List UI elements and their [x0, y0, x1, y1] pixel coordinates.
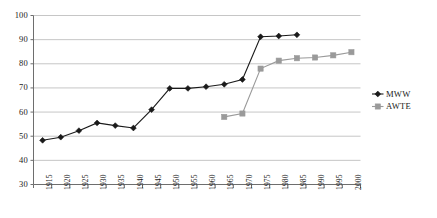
x-tick-label: 1940 — [137, 174, 145, 190]
line-chart: 30405060708090100 1915192019251930193519… — [0, 0, 437, 218]
data-point-mww — [58, 134, 64, 140]
x-tick-label: 1970 — [246, 174, 254, 190]
data-point-awte — [312, 55, 317, 60]
x-tick-label: 1955 — [191, 174, 199, 190]
legend-label-mww: MWW — [386, 90, 410, 99]
data-point-mww — [185, 86, 191, 92]
data-point-awte — [258, 66, 263, 71]
x-tick-label: 1935 — [118, 174, 126, 190]
y-tick-label: 90 — [2, 35, 28, 44]
legend-marker-mww — [375, 91, 381, 97]
data-point-mww — [240, 77, 246, 83]
legend-marker-awte — [375, 104, 380, 109]
x-tick-label: 1925 — [82, 174, 90, 190]
x-tick-label: 1915 — [46, 174, 54, 190]
data-point-mww — [294, 32, 300, 38]
y-tick-label: 40 — [2, 156, 28, 165]
series-line-awte — [224, 52, 351, 117]
y-tick-label: 50 — [2, 132, 28, 141]
y-tick-label: 70 — [2, 83, 28, 92]
y-tick-label: 80 — [2, 59, 28, 68]
data-point-awte — [349, 50, 354, 55]
y-tick-label: 60 — [2, 108, 28, 117]
x-tick-label: 1980 — [282, 174, 290, 190]
y-tick-label: 30 — [2, 180, 28, 189]
axes — [31, 16, 361, 185]
x-tick-label: 1985 — [300, 174, 308, 190]
x-tick-label: 1920 — [64, 174, 72, 190]
data-point-mww — [76, 128, 82, 134]
x-tick-label: 1990 — [318, 174, 326, 190]
x-tick-label: 1960 — [209, 174, 217, 190]
x-tick-label: 2000 — [355, 174, 363, 190]
data-point-mww — [94, 120, 100, 126]
data-point-awte — [294, 56, 299, 61]
data-point-awte — [331, 53, 336, 58]
x-tick-label: 1930 — [100, 174, 108, 190]
legend-label-awte: AWTE — [386, 102, 411, 111]
y-tick-label: 100 — [2, 11, 28, 20]
x-tick-label: 1950 — [173, 174, 181, 190]
data-point-awte — [276, 58, 281, 63]
data-point-mww — [221, 81, 227, 87]
legend-markers — [372, 91, 384, 109]
x-tick-label: 1965 — [227, 174, 235, 190]
data-point-mww — [258, 34, 264, 40]
data-point-mww — [40, 137, 46, 143]
x-tick-label: 1995 — [336, 174, 344, 190]
x-tick-label: 1945 — [155, 174, 163, 190]
data-point-awte — [240, 111, 245, 116]
data-point-mww — [276, 33, 282, 39]
data-point-mww — [203, 84, 209, 90]
x-tick-label: 1975 — [264, 174, 272, 190]
data-point-awte — [222, 114, 227, 119]
data-point-mww — [112, 123, 118, 129]
